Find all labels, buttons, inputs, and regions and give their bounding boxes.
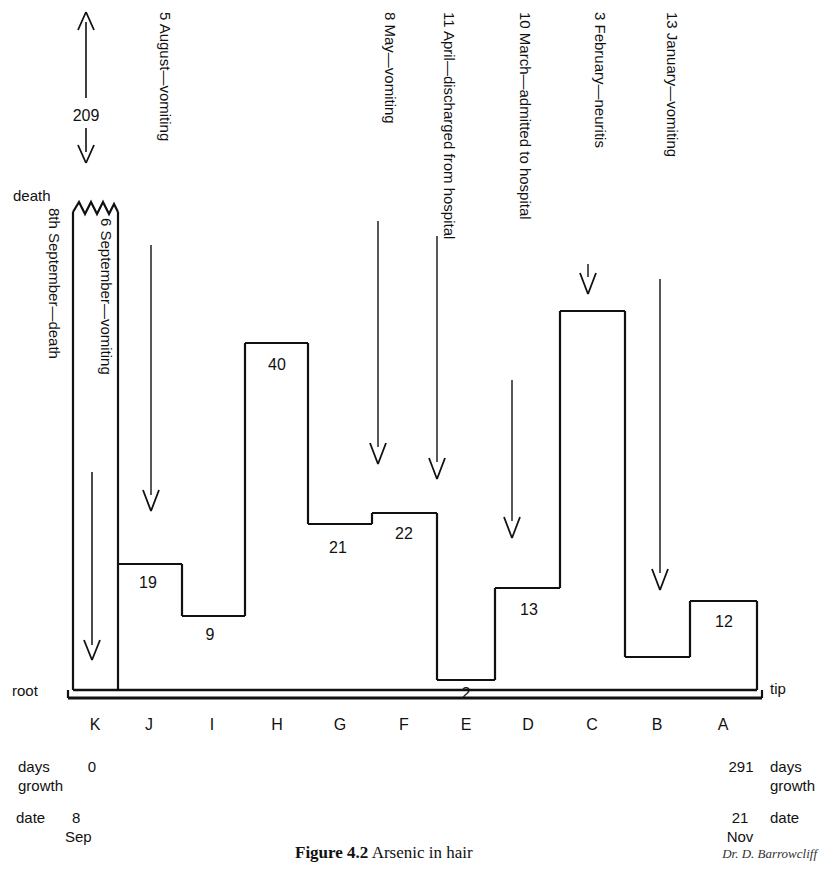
bar-value-J: 19 [139,574,157,591]
category-label-H: H [271,716,283,733]
right-days-label: days [770,758,802,775]
baseline-axis [68,690,762,698]
left-days-value: 0 [88,758,96,775]
bar-value-I: 9 [206,626,215,643]
bar-value-D: 13 [520,601,538,618]
bar-E [437,588,495,680]
annotation-arrow-10-march-admitted [504,380,520,538]
annotation-arrow-8-may-vomiting [370,221,386,464]
annotation-13-january-vomiting: 13 January—vomiting [664,12,681,157]
left-date-value: 8 [72,809,80,826]
category-label-D: D [522,716,534,733]
annotation-8th-september-death: 8th September—death [46,208,63,359]
annotation-3-february-neuritis: 3 February—neuritis [592,12,609,148]
left-growth-label: growth [18,777,63,794]
arsenic-in-hair-bar-chart: 209 death 8th September—death 6 Septembe… [0,0,829,874]
annotation-5-august-vomiting: 5 August—vomiting [157,12,174,141]
bar-B [625,601,690,657]
category-label-E: E [461,716,472,733]
annotation-10-march-admitted: 10 March—admitted to hospital [517,12,534,220]
left-days-label: days [18,758,50,775]
category-label-C: C [586,716,598,733]
figure-caption: Figure 4.2 Arsenic in hair Dr. D. Barrow… [0,843,829,871]
bar-value-A: 12 [715,613,733,630]
annotation-arrow-11-april-discharged [429,236,445,479]
category-label-A: A [718,716,729,733]
category-label-G: G [334,716,346,733]
category-label-J: J [145,716,153,733]
tip-label: tip [770,680,786,697]
annotation-11-april-discharged: 11 April—discharged from hospital [441,12,458,239]
bar-outline-group [73,202,757,690]
category-label-F: F [399,716,409,733]
annotation-arrow-3-february-neuritis [580,264,596,294]
annotation-arrow-5-august-vomiting [143,245,159,511]
bar-C [560,311,625,657]
bar-D [495,311,560,588]
annotation-8-may-vomiting: 8 May—vomiting [382,12,399,124]
bar-value-H: 40 [268,356,286,373]
caption-credit: Dr. D. Barrowcliff [722,846,817,862]
gap-marker-value: 209 [73,107,100,124]
right-date-value: 21 [732,809,749,826]
left-date-label: date [16,809,45,826]
bar-value-G: 21 [329,539,347,556]
annotation-arrow-13-january-vomiting [652,279,668,590]
death-label: death [13,187,51,204]
root-label: root [12,682,39,699]
annotation-arrow-8th-september-death [84,472,100,660]
annotation-6-september-vomiting: 6 September—vomiting [98,218,115,375]
bar-G [308,513,372,524]
gap-marker-209: 209 [73,12,100,163]
category-label-I: I [210,716,214,733]
figure-container: 209 death 8th September—death 6 Septembe… [0,0,829,874]
right-date-label: date [770,809,799,826]
bar-value-F: 22 [395,525,413,542]
bar-K-break-zigzag [73,202,118,214]
category-label-K: K [90,716,101,733]
bar-I [182,343,245,616]
caption-label: Figure 4.2 [295,843,368,862]
right-days-value: 291 [728,758,753,775]
bar-value-E: 2 [462,685,471,702]
right-growth-label: growth [770,777,815,794]
caption-text: Arsenic in hair [372,843,473,862]
category-label-B: B [652,716,663,733]
